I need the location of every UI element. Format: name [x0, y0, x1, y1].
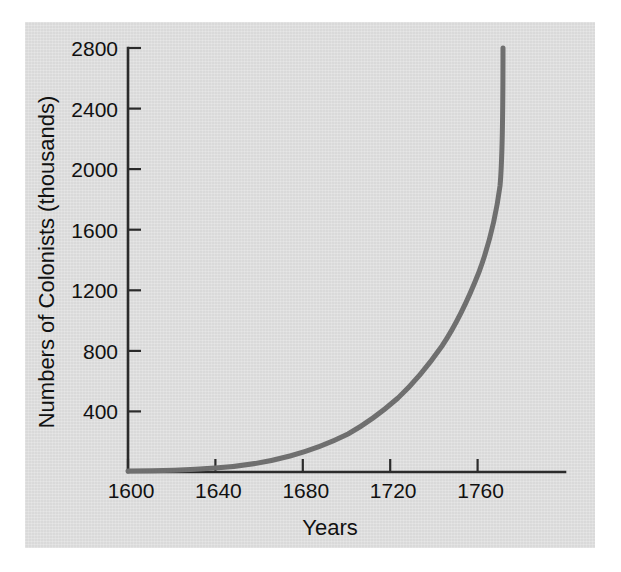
y-tick-label-2800: 2800 — [71, 37, 118, 60]
x-tick-label-1600: 1600 — [108, 479, 155, 502]
y-tick-label-400: 400 — [83, 400, 118, 423]
x-tick-label-1640: 1640 — [195, 479, 242, 502]
x-tick-label-1680: 1680 — [282, 479, 329, 502]
axes-group — [128, 48, 565, 472]
x-tick-labels: 1600 1640 1680 1720 1760 — [108, 479, 504, 502]
x-axis-title: Years — [302, 515, 357, 540]
y-tick-label-800: 800 — [83, 340, 118, 363]
x-tick-label-1720: 1720 — [370, 479, 417, 502]
y-tick-label-2000: 2000 — [71, 158, 118, 181]
colonists-growth-curve — [128, 48, 503, 471]
y-tick-marks — [128, 48, 141, 411]
y-tick-label-2400: 2400 — [71, 98, 118, 121]
y-tick-label-1200: 1200 — [71, 279, 118, 302]
chart-canvas: 2800 2400 2000 1600 1200 800 400 1600 16… — [0, 0, 621, 572]
figure-container: 2800 2400 2000 1600 1200 800 400 1600 16… — [0, 0, 621, 572]
x-tick-label-1760: 1760 — [457, 479, 504, 502]
data-series-colonists — [128, 48, 503, 471]
y-tick-label-1600: 1600 — [71, 219, 118, 242]
y-axis-title: Numbers of Colonists (thousands) — [34, 96, 59, 429]
y-tick-labels: 2800 2400 2000 1600 1200 800 400 — [71, 37, 118, 423]
